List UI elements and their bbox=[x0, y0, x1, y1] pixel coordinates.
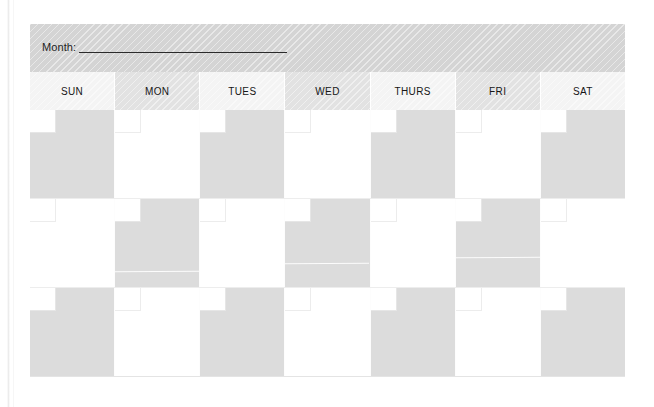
weekday-header-label: SUN bbox=[61, 86, 83, 97]
calendar-week-row bbox=[30, 288, 625, 377]
weekday-header-fri: FRI bbox=[456, 72, 541, 110]
calendar-day-cell-wed[interactable] bbox=[285, 199, 370, 287]
scan-artifact-line bbox=[285, 263, 369, 265]
calendar-day-cell-thurs[interactable] bbox=[371, 199, 456, 287]
weekday-header-label: WED bbox=[315, 86, 340, 97]
calendar-day-cell-thurs[interactable] bbox=[371, 288, 456, 376]
date-number-box[interactable] bbox=[541, 199, 567, 222]
date-number-box[interactable] bbox=[456, 110, 482, 133]
page-background: Month: SUNMONTUESWEDTHURSFRISAT bbox=[0, 0, 654, 407]
calendar-day-cell-fri[interactable] bbox=[456, 199, 541, 287]
calendar-day-cell-sun[interactable] bbox=[30, 288, 115, 376]
date-number-box[interactable] bbox=[115, 199, 141, 222]
month-label: Month: bbox=[42, 41, 76, 54]
calendar-day-cell-thurs[interactable] bbox=[371, 110, 456, 198]
scan-artifact-line bbox=[115, 271, 199, 273]
date-number-box[interactable] bbox=[200, 110, 226, 133]
date-number-box[interactable] bbox=[200, 288, 226, 311]
date-number-box[interactable] bbox=[285, 288, 311, 311]
calendar-week-row bbox=[30, 199, 625, 288]
weekday-header-label: THURS bbox=[394, 86, 430, 97]
scan-artifact-line bbox=[456, 257, 540, 259]
weekday-header-tues: TUES bbox=[200, 72, 285, 110]
date-number-box[interactable] bbox=[371, 199, 397, 222]
calendar-day-cell-mon[interactable] bbox=[115, 110, 200, 198]
date-number-box[interactable] bbox=[371, 288, 397, 311]
calendar-day-cell-wed[interactable] bbox=[285, 110, 370, 198]
calendar-week-row bbox=[30, 110, 625, 199]
calendar-day-cell-sat[interactable] bbox=[541, 110, 625, 198]
calendar-sheet: Month: SUNMONTUESWEDTHURSFRISAT bbox=[30, 24, 625, 390]
date-number-box[interactable] bbox=[456, 288, 482, 311]
weekday-header-label: MON bbox=[145, 86, 170, 97]
calendar-day-cell-mon[interactable] bbox=[115, 288, 200, 376]
weekday-header-wed: WED bbox=[285, 72, 370, 110]
date-number-box[interactable] bbox=[285, 199, 311, 222]
month-field-row: Month: bbox=[42, 41, 287, 54]
calendar-day-cell-fri[interactable] bbox=[456, 288, 541, 376]
weekday-header-sun: SUN bbox=[30, 72, 115, 110]
weekday-header-label: FRI bbox=[489, 86, 506, 97]
date-number-box[interactable] bbox=[285, 110, 311, 133]
weekday-header-mon: MON bbox=[115, 72, 200, 110]
weekday-header-label: TUES bbox=[228, 86, 256, 97]
date-number-box[interactable] bbox=[541, 110, 567, 133]
date-number-box[interactable] bbox=[115, 288, 141, 311]
paper-binding-seam bbox=[7, 0, 10, 407]
calendar-weeks-grid bbox=[30, 110, 625, 390]
date-number-box[interactable] bbox=[456, 199, 482, 222]
date-number-box[interactable] bbox=[30, 199, 56, 222]
date-number-box[interactable] bbox=[200, 199, 226, 222]
weekday-header-sat: SAT bbox=[541, 72, 625, 110]
date-number-box[interactable] bbox=[30, 288, 56, 311]
calendar-day-cell-sat[interactable] bbox=[541, 199, 625, 287]
calendar-day-cell-tues[interactable] bbox=[200, 288, 285, 376]
month-write-in-line[interactable] bbox=[79, 52, 287, 53]
calendar-day-cell-wed[interactable] bbox=[285, 288, 370, 376]
date-number-box[interactable] bbox=[115, 110, 141, 133]
calendar-day-cell-fri[interactable] bbox=[456, 110, 541, 198]
date-number-box[interactable] bbox=[30, 110, 56, 133]
paper-binding-seam-line bbox=[13, 0, 14, 407]
weekday-header-row: SUNMONTUESWEDTHURSFRISAT bbox=[30, 72, 625, 110]
calendar-day-cell-mon[interactable] bbox=[115, 199, 200, 287]
date-number-box[interactable] bbox=[541, 288, 567, 311]
calendar-day-cell-tues[interactable] bbox=[200, 199, 285, 287]
calendar-day-cell-sun[interactable] bbox=[30, 199, 115, 287]
calendar-day-cell-sat[interactable] bbox=[541, 288, 625, 376]
calendar-day-cell-sun[interactable] bbox=[30, 110, 115, 198]
calendar-day-cell-tues[interactable] bbox=[200, 110, 285, 198]
weekday-header-thurs: THURS bbox=[371, 72, 456, 110]
month-banner: Month: bbox=[30, 24, 625, 72]
date-number-box[interactable] bbox=[371, 110, 397, 133]
weekday-header-label: SAT bbox=[573, 86, 593, 97]
